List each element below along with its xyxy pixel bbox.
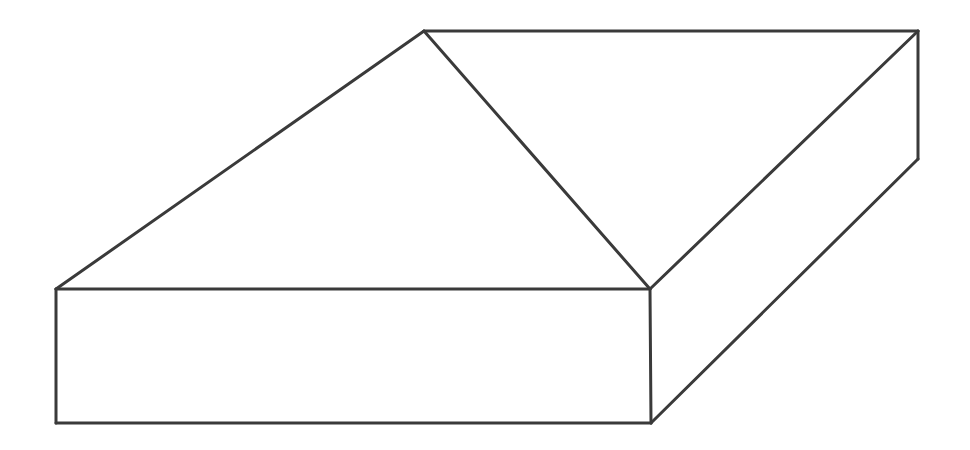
front-right-edge (650, 289, 651, 423)
top-right-slant-edge (650, 31, 918, 289)
top-left-slant-edge (56, 31, 424, 289)
top-diagonal-edge (424, 31, 650, 289)
prism-drawing (0, 0, 970, 450)
prism-edges (56, 31, 918, 423)
bottom-right-slant-edge (651, 159, 918, 423)
prism-diagram (0, 0, 970, 450)
